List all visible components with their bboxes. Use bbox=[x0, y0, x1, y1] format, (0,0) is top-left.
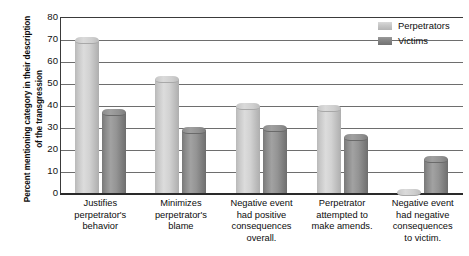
bar-cap bbox=[424, 156, 448, 163]
bar-perpetrators bbox=[317, 105, 341, 193]
y-axis-tick: 40 bbox=[36, 100, 58, 110]
bar-body bbox=[424, 159, 448, 193]
legend-swatch-icon bbox=[378, 22, 392, 30]
bar-cap bbox=[182, 127, 206, 134]
bar-cap bbox=[317, 105, 341, 112]
bar-perpetrators bbox=[236, 103, 260, 193]
bar-cap bbox=[263, 125, 287, 132]
bar-body bbox=[75, 40, 99, 193]
bar-body bbox=[344, 137, 368, 193]
x-axis-label-line: blame bbox=[141, 221, 222, 233]
bar-cap bbox=[397, 189, 421, 196]
chart-legend: PerpetratorsVictims bbox=[378, 19, 469, 49]
y-axis-tick: 0 bbox=[36, 188, 58, 198]
x-axis-label-line: perpetrator's bbox=[141, 210, 222, 222]
bar-body bbox=[155, 79, 179, 193]
bar-group bbox=[141, 17, 222, 193]
x-axis-label-line: had negative bbox=[382, 210, 463, 222]
bar-victims bbox=[424, 156, 448, 193]
x-axis-label-line: overall. bbox=[221, 233, 302, 245]
bar-victims bbox=[344, 134, 368, 193]
x-axis-label-line: behavior bbox=[60, 221, 141, 233]
legend-item: Perpetrators bbox=[378, 19, 469, 33]
x-axis-label-line: Minimizes bbox=[141, 198, 222, 210]
y-axis-tick: 20 bbox=[36, 144, 58, 154]
bar-body bbox=[263, 128, 287, 193]
x-axis-label: Justifiesperpetrator'sbehavior bbox=[60, 198, 141, 233]
legend-item: Victims bbox=[378, 34, 469, 48]
y-axis-tick: 80 bbox=[36, 12, 58, 22]
bar-chart: Percent mentioning category in their des… bbox=[0, 0, 469, 256]
x-axis-label-line: consequences bbox=[221, 221, 302, 233]
x-axis-label: Minimizesperpetrator'sblame bbox=[141, 198, 222, 233]
bar-perpetrators bbox=[155, 76, 179, 193]
x-axis-label: Perpetratorattempted tomake amends. bbox=[302, 198, 383, 233]
x-axis-label-line: to victim. bbox=[382, 233, 463, 245]
bar-cap bbox=[344, 134, 368, 141]
x-axis-label-line: Perpetrator bbox=[302, 198, 383, 210]
legend-label: Victims bbox=[398, 36, 428, 46]
x-axis-label-line: make amends. bbox=[302, 221, 383, 233]
bar-cap bbox=[102, 109, 126, 116]
bar-victims bbox=[263, 125, 287, 193]
x-axis-label: Negative eventhad negativeconsequencesto… bbox=[382, 198, 463, 244]
bar-body bbox=[102, 112, 126, 193]
bar-perpetrators bbox=[75, 37, 99, 193]
x-axis-label: Negative eventhad positiveconsequencesov… bbox=[221, 198, 302, 244]
bar-body bbox=[182, 130, 206, 193]
x-axis-label-line: perpetrator's bbox=[60, 210, 141, 222]
y-axis-tick: 10 bbox=[36, 166, 58, 176]
bar-body bbox=[317, 108, 341, 193]
x-axis-label-line: attempted to bbox=[302, 210, 383, 222]
x-axis-label-line: Negative event bbox=[382, 198, 463, 210]
bar-body bbox=[236, 106, 260, 193]
x-axis-label-line: consequences bbox=[382, 221, 463, 233]
y-axis-tick: 50 bbox=[36, 78, 58, 88]
bar-victims bbox=[102, 109, 126, 193]
bar-perpetrators bbox=[397, 189, 421, 193]
x-axis-category-labels: Justifiesperpetrator'sbehaviorMinimizesp… bbox=[60, 198, 463, 254]
bar-cap bbox=[236, 103, 260, 110]
y-axis-tick: 30 bbox=[36, 122, 58, 132]
y-axis-tick: 70 bbox=[36, 34, 58, 44]
legend-label: Perpetrators bbox=[398, 21, 450, 31]
bar-cap bbox=[155, 76, 179, 83]
x-axis-label-line: Negative event bbox=[221, 198, 302, 210]
bar-group bbox=[221, 17, 302, 193]
y-axis-tick: 60 bbox=[36, 56, 58, 66]
bar-cap bbox=[75, 37, 99, 44]
legend-swatch-icon bbox=[378, 37, 392, 45]
bar-group bbox=[302, 17, 383, 193]
x-axis-label-line: had positive bbox=[221, 210, 302, 222]
bar-group bbox=[60, 17, 141, 193]
x-axis-label-line: Justifies bbox=[60, 198, 141, 210]
bar-victims bbox=[182, 127, 206, 193]
